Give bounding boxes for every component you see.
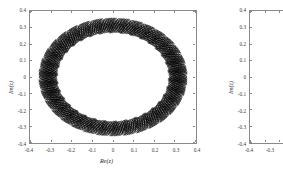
xtick-label: 0 — [103, 147, 123, 153]
axis-tick — [71, 11, 72, 13]
axis-tick — [30, 11, 32, 12]
x-axis-title: Re(z) — [100, 157, 113, 164]
xtick-label: -0.1 — [82, 147, 102, 153]
ytick-label: 0.4 — [226, 7, 246, 13]
axis-tick — [113, 11, 114, 13]
axis-tick — [133, 140, 134, 142]
plot-panel-right: 0.4 0.3 0.2 0.1 0 -0.1 -0.2 -0.3 -0.4 -0… — [215, 0, 283, 169]
axis-tick — [265, 140, 266, 142]
axis-tick — [250, 27, 252, 28]
ytick-label: 0.1 — [226, 57, 246, 63]
axis-tick — [250, 77, 252, 78]
orbit-curve — [39, 19, 186, 136]
axis-tick — [174, 140, 175, 142]
ytick-label: 0 — [226, 74, 246, 80]
axis-tick — [193, 11, 195, 12]
plot-axes-left — [29, 10, 197, 144]
orbit-curve — [39, 18, 186, 136]
axis-tick — [193, 77, 195, 78]
axis-tick — [250, 126, 252, 127]
axis-tick — [71, 140, 72, 142]
xtick-label: -0.4 — [19, 147, 39, 153]
y-axis-title: Im(z) — [227, 81, 234, 94]
y-axis-title: Im(z) — [7, 81, 14, 94]
axis-tick — [92, 11, 93, 13]
axis-tick — [30, 27, 32, 28]
axis-tick — [193, 109, 195, 110]
axis-tick — [30, 126, 32, 127]
axis-tick — [279, 140, 280, 142]
axis-tick — [51, 140, 52, 142]
ytick-label: 0.3 — [226, 24, 246, 30]
axis-tick — [154, 140, 155, 142]
ytick-label: 0 — [6, 74, 26, 80]
axis-tick — [193, 44, 195, 45]
axis-tick — [30, 60, 32, 61]
ytick-label: 0.2 — [226, 41, 246, 47]
axis-tick — [154, 11, 155, 13]
axis-tick — [250, 60, 252, 61]
axis-tick — [250, 44, 252, 45]
axis-tick — [195, 140, 196, 142]
plot-axes-right — [249, 10, 283, 144]
axis-tick — [193, 142, 195, 143]
axis-tick — [30, 142, 32, 143]
axis-tick — [193, 60, 195, 61]
ytick-label: -0.3 — [226, 124, 246, 130]
axis-tick — [195, 11, 196, 13]
xtick-label: -0.3 — [260, 147, 280, 153]
axis-tick — [250, 142, 252, 143]
orbit-band-curves — [30, 11, 196, 143]
xtick-label: 0.1 — [124, 147, 144, 153]
axis-tick — [279, 11, 280, 13]
axis-tick — [92, 140, 93, 142]
axis-tick — [30, 77, 32, 78]
axis-tick — [113, 140, 114, 142]
axis-tick — [250, 93, 252, 94]
xtick-label: 0.2 — [145, 147, 165, 153]
axis-tick — [250, 109, 252, 110]
xtick-label: 0.3 — [166, 147, 186, 153]
xtick-label: 0.4 — [187, 147, 207, 153]
ytick-label: 0.3 — [6, 24, 26, 30]
xtick-label: -0.4 — [239, 147, 259, 153]
axis-tick — [133, 11, 134, 13]
xtick-label: -0.2 — [61, 147, 81, 153]
xtick-label: -0.3 — [40, 147, 60, 153]
ytick-label: -0.3 — [6, 124, 26, 130]
plot-panel-left: 0.4 0.3 0.2 0.1 0 -0.1 -0.2 -0.3 -0.4 -0… — [0, 0, 200, 169]
axis-tick — [174, 11, 175, 13]
ytick-label: -0.2 — [226, 108, 246, 114]
axis-tick — [193, 126, 195, 127]
axis-tick — [193, 93, 195, 94]
ytick-label: 0.1 — [6, 57, 26, 63]
figure-canvas: 0.4 0.3 0.2 0.1 0 -0.1 -0.2 -0.3 -0.4 -0… — [0, 0, 283, 169]
axis-tick — [30, 44, 32, 45]
axis-tick — [250, 11, 252, 12]
ytick-label: 0.2 — [6, 41, 26, 47]
ytick-label: 0.4 — [6, 7, 26, 13]
axis-tick — [30, 93, 32, 94]
axis-tick — [51, 11, 52, 13]
axis-tick — [193, 27, 195, 28]
axis-tick — [30, 109, 32, 110]
ytick-label: -0.2 — [6, 108, 26, 114]
axis-tick — [265, 11, 266, 13]
